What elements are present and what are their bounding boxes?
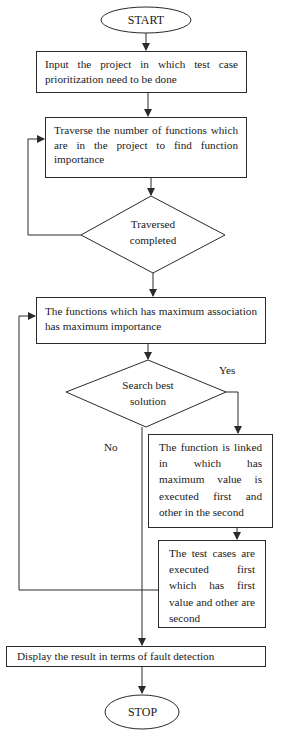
step-testcases-text: The test cases are executed first which …	[169, 547, 255, 624]
start-label: START	[128, 13, 164, 28]
step-input-project: Input the project in which test case pri…	[36, 51, 247, 93]
loop-testcases-to-association	[19, 316, 158, 590]
stop-terminal: STOP	[105, 696, 180, 728]
decision-traversed-line1: Traversed	[100, 216, 206, 232]
step-display-text: Display the result in terms of fault det…	[17, 650, 214, 662]
branch-yes-label: Yes	[219, 364, 235, 376]
step-traverse-functions: Traverse the number of functions which a…	[45, 117, 247, 178]
step-test-cases-executed: The test cases are executed first which …	[158, 540, 266, 628]
decision-traversed-line2: completed	[100, 232, 206, 248]
step-linked-text: The function is linked in which has maxi…	[159, 441, 262, 518]
start-terminal: START	[101, 8, 191, 33]
step-input-text: Input the project in which test case pri…	[45, 58, 238, 85]
decision-traversed: Traversed completed	[100, 216, 206, 248]
decision-search-line1: Search best	[96, 377, 200, 393]
step-traverse-text: Traverse the number of functions which a…	[54, 124, 238, 165]
step-function-linked: The function is linked in which has maxi…	[148, 434, 273, 528]
branch-no-label: No	[104, 441, 118, 453]
step-max-association: The functions which has maximum associat…	[36, 297, 266, 344]
step-association-text: The functions which has maximum associat…	[45, 305, 257, 332]
decision-search-line2: solution	[96, 393, 200, 409]
arrow-yes-branch	[226, 392, 238, 433]
flowchart-connectors	[0, 0, 282, 746]
decision-search-best: Search best solution	[96, 377, 200, 409]
step-display-result: Display the result in terms of fault det…	[6, 646, 266, 667]
stop-label: STOP	[128, 705, 157, 720]
